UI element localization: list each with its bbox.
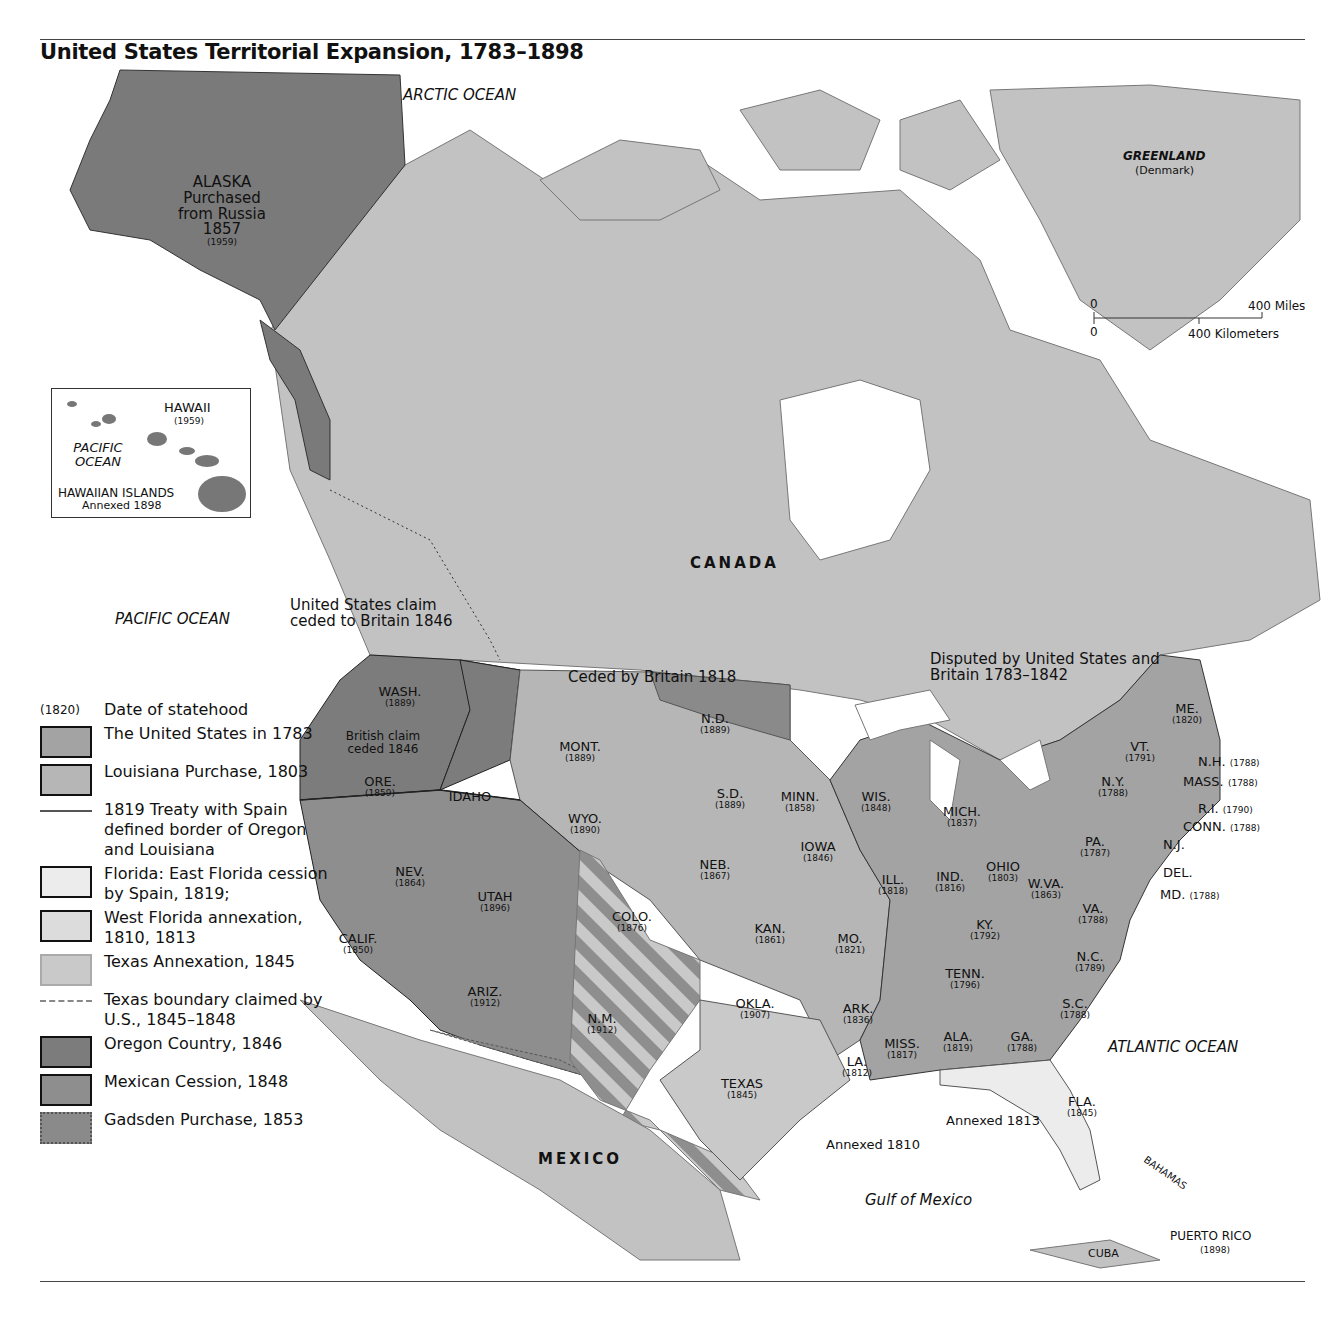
- state-callout: CONN. (1788): [1183, 820, 1260, 834]
- state-name: MICH.: [943, 804, 981, 819]
- state-label: UTAH(1896): [473, 890, 517, 913]
- state-year: (1861): [748, 936, 792, 945]
- state-year: (1850): [336, 946, 380, 955]
- state-year: (1812): [835, 1069, 879, 1078]
- state-year: (1836): [836, 1016, 880, 1025]
- state-name: IDAHO: [449, 789, 492, 804]
- state-year: (1796): [943, 981, 987, 990]
- legend-label: The United States in 1783: [104, 724, 313, 744]
- state-name: N.M.: [587, 1011, 616, 1026]
- state-year: (1889): [693, 726, 737, 735]
- state-name: N.C.: [1076, 949, 1103, 964]
- state-year: (1889): [378, 699, 422, 708]
- state-year: (1816): [928, 884, 972, 893]
- legend-label: West Florida annexation, 1810, 1813: [104, 908, 340, 948]
- state-name: WIS.: [861, 789, 890, 804]
- state-name: N.H.: [1198, 754, 1226, 769]
- state-year: (1790): [1223, 805, 1253, 815]
- state-name: ARIZ.: [468, 984, 503, 999]
- state-year: (1889): [708, 801, 752, 810]
- pacific-ocean-label: PACIFIC OCEAN: [115, 612, 230, 628]
- state-year: (1787): [1073, 849, 1117, 858]
- state-label: WIS.(1848): [854, 790, 898, 813]
- legend-item: West Florida annexation, 1810, 1813: [40, 908, 340, 948]
- legend-label: 1819 Treaty with Spain defined border of…: [104, 800, 340, 860]
- state-label: MONT.(1889): [558, 740, 602, 763]
- state-year: (1788): [1000, 1044, 1044, 1053]
- state-name: MASS.: [1183, 774, 1224, 789]
- state-year: (1788): [1230, 823, 1260, 833]
- state-name: VA.: [1083, 901, 1104, 916]
- state-year: (1788): [1230, 758, 1260, 768]
- bottom-rule: [40, 1281, 1305, 1282]
- hawaii-ocean: PACIFIC OCEAN: [68, 441, 128, 468]
- state-label: ARK.(1836): [836, 1002, 880, 1025]
- state-name: GA.: [1011, 1029, 1034, 1044]
- state-name: ILL.: [882, 872, 904, 887]
- state-year: (1863): [1024, 891, 1068, 900]
- greenland-note: (Denmark): [1135, 165, 1194, 177]
- legend-date-sample: (1820): [40, 700, 104, 720]
- state-name: FLA.: [1068, 1094, 1096, 1109]
- legend-item: Florida: East Florida cession by Spain, …: [40, 864, 340, 904]
- state-label: IDAHO: [448, 790, 492, 804]
- state-year: (1788): [1228, 778, 1258, 788]
- state-label: TENN.(1796): [943, 967, 987, 990]
- state-name: MISS.: [884, 1036, 920, 1051]
- state-year: (1876): [610, 924, 654, 933]
- state-year: (1867): [693, 872, 737, 881]
- legend-line-swatch: [40, 990, 92, 1010]
- state-name: TEXAS: [721, 1076, 763, 1091]
- atlantic-ocean-label: ATLANTIC OCEAN: [1108, 1040, 1238, 1056]
- state-year: (1845): [1060, 1109, 1104, 1118]
- legend-label: Louisiana Purchase, 1803: [104, 762, 308, 782]
- state-callout: N.H. (1788): [1198, 755, 1260, 769]
- legend-label: Florida: East Florida cession by Spain, …: [104, 864, 340, 904]
- state-label: W.VA.(1863): [1024, 877, 1068, 900]
- state-label: KY.(1792): [963, 918, 1007, 941]
- state-year: (1858): [778, 804, 822, 813]
- state-year: (1837): [940, 819, 984, 828]
- legend: (1820) Date of statehood The United Stat…: [40, 700, 340, 1148]
- state-name: S.D.: [717, 786, 744, 801]
- state-name: PA.: [1085, 834, 1105, 849]
- state-name: VT.: [1130, 739, 1149, 754]
- state-year: (1846): [796, 854, 840, 863]
- state-year: (1896): [473, 904, 517, 913]
- legend-label: Oregon Country, 1846: [104, 1034, 282, 1054]
- state-label: ILL.(1818): [871, 873, 915, 896]
- state-label: TEXAS(1845): [720, 1077, 764, 1100]
- state-year: (1912): [580, 1026, 624, 1035]
- state-label: OHIO(1803): [981, 860, 1025, 883]
- state-year: (1791): [1118, 754, 1162, 763]
- state-year: (1859): [358, 789, 402, 798]
- state-label: VA.(1788): [1071, 902, 1115, 925]
- state-year: (1817): [880, 1051, 924, 1060]
- state-label: WASH.(1889): [378, 685, 422, 708]
- arctic-ocean-label: ARCTIC OCEAN: [403, 88, 516, 104]
- hawaii-statehood: (1959): [174, 417, 204, 426]
- state-name: IOWA: [800, 839, 835, 854]
- legend-label: Texas boundary claimed by U.S., 1845–184…: [104, 990, 340, 1030]
- state-callout: MASS. (1788): [1183, 775, 1258, 789]
- state-name: ORE.: [364, 774, 396, 789]
- state-name: NEB.: [700, 857, 731, 872]
- state-year: (1890): [563, 826, 607, 835]
- state-label: N.D.(1889): [693, 712, 737, 735]
- state-name: WASH.: [379, 684, 422, 699]
- mexico-label: MEXICO: [538, 1152, 622, 1168]
- state-label: S.D.(1889): [708, 787, 752, 810]
- legend-item: The United States in 1783: [40, 724, 340, 758]
- british-claim-annotation: British claim ceded 1846: [338, 730, 428, 755]
- legend-swatch: [40, 1112, 92, 1144]
- state-name: N.D.: [701, 711, 729, 726]
- puerto-rico-year: (1898): [1200, 1246, 1230, 1255]
- cuba-label: CUBA: [1088, 1248, 1119, 1260]
- state-label: N.M.(1912): [580, 1012, 624, 1035]
- state-name: CALIF.: [339, 931, 378, 946]
- state-year: (1818): [871, 887, 915, 896]
- legend-line-swatch: [40, 800, 92, 820]
- state-label: ARIZ.(1912): [463, 985, 507, 1008]
- annexed-1810-annotation: Annexed 1810: [826, 1138, 920, 1152]
- state-label: GA.(1788): [1000, 1030, 1044, 1053]
